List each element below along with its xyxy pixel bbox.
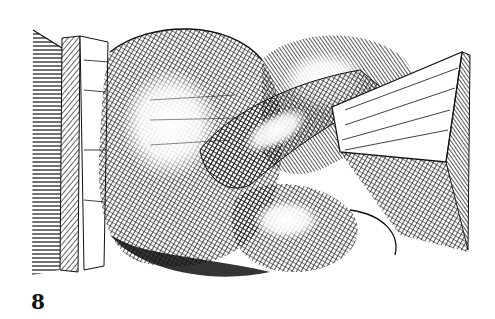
shaft-left — [32, 30, 108, 275]
knot-illustration — [0, 0, 495, 319]
figure-number: 8 — [31, 290, 45, 314]
loop-bottom — [232, 184, 396, 272]
